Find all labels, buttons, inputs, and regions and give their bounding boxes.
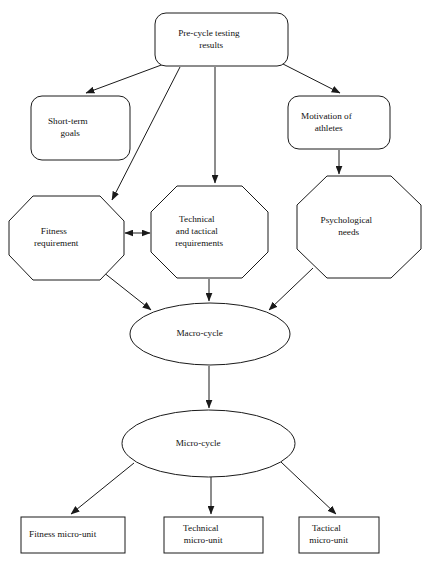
node-technical-micro-unit[interactable]: Technical micro-unit: [164, 517, 263, 553]
edge-psychological-to-macro: [269, 268, 313, 310]
edge-testing-to-motivation: [283, 64, 340, 93]
node-fitness-requirement[interactable]: Fitness requirement: [9, 196, 124, 280]
node-macro-cycle[interactable]: Macro-cycle: [130, 303, 290, 365]
edge-fitness-to-macro: [103, 272, 151, 310]
macro-cycle-label: Macro-cycle: [176, 328, 243, 338]
flowchart-canvas: Pre-cycle testing results Short-term goa…: [0, 0, 431, 566]
node-tactical-micro-unit[interactable]: Tactical micro-unit: [299, 517, 379, 553]
node-technical-and-tactical-requirements[interactable]: Technical and tactical requirements: [151, 186, 268, 278]
edge-micro-to-fitness-unit: [71, 463, 134, 514]
node-pre-cycle-testing-results[interactable]: Pre-cycle testing results: [155, 13, 288, 66]
node-fitness-micro-unit[interactable]: Fitness micro-unit: [21, 517, 125, 553]
fitness-micro-unit-label: Fitness micro-unit: [29, 529, 117, 539]
flowchart-svg: Pre-cycle testing results Short-term goa…: [0, 0, 431, 566]
edge-testing-to-short-term-goals: [86, 64, 164, 93]
micro-cycle-label: Micro-cycle: [176, 438, 242, 448]
node-short-term-goals[interactable]: Short-term goals: [31, 96, 130, 160]
node-psychological-needs[interactable]: Psychological needs: [297, 176, 421, 278]
node-micro-cycle[interactable]: Micro-cycle: [122, 410, 295, 477]
node-motivation-of-athletes[interactable]: Motivation of athletes: [288, 96, 390, 149]
technical-and-tactical-requirements-label: Technical and tactical requirements: [175, 214, 244, 248]
edge-micro-to-tactical-unit: [281, 462, 336, 514]
